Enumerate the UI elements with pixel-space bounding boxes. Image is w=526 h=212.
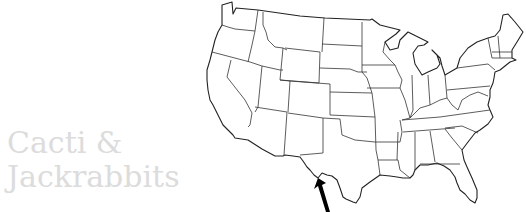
arrow-pointer-icon bbox=[314, 178, 330, 212]
us-map bbox=[0, 0, 526, 212]
